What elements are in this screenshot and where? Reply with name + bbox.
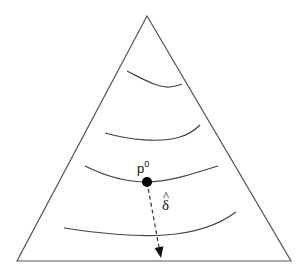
point-p0: [142, 177, 152, 187]
diagram-svg: [0, 0, 303, 276]
contour-line-1: [127, 71, 182, 87]
contour-line-4: [64, 212, 236, 236]
point-label-superscript: 0: [144, 159, 149, 169]
direction-hat: ^: [163, 189, 169, 202]
point-label: p0: [137, 160, 149, 176]
arrowhead-icon: [155, 246, 164, 258]
direction-arrow-line: [147, 182, 159, 247]
direction-label: ^ δ: [162, 198, 169, 213]
diagram-canvas: p0 ^ δ: [0, 0, 303, 276]
contour-line-3: [85, 166, 218, 182]
contour-line-2: [105, 125, 200, 140]
simplex-triangle: [17, 16, 291, 261]
